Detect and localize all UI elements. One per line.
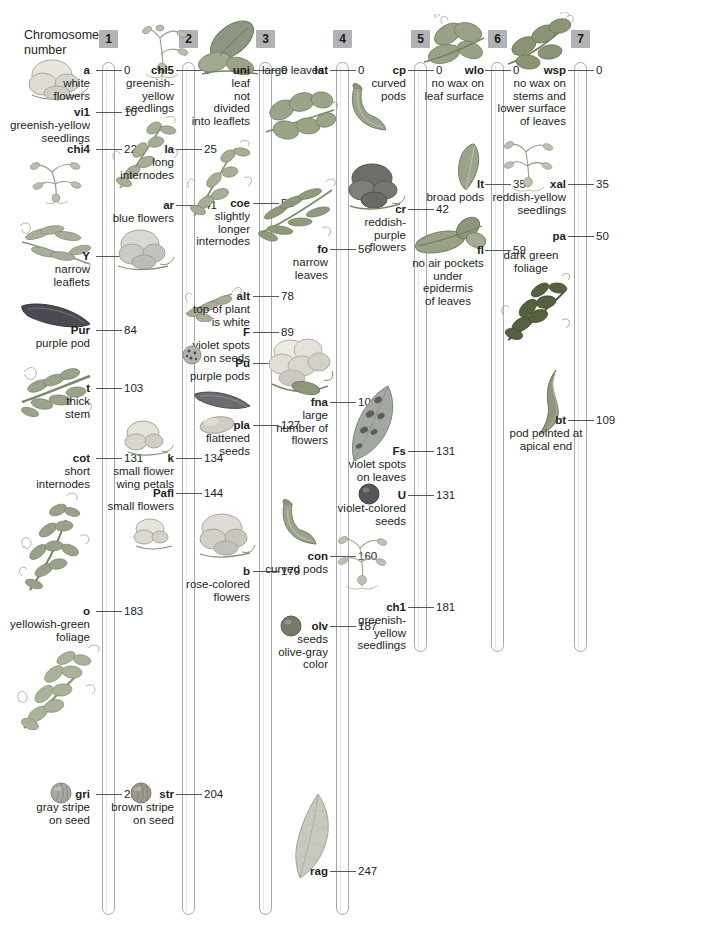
locus-gene-cp: cp — [364, 64, 406, 77]
locus-gene-U: U — [364, 489, 406, 502]
locus-tick-rag — [330, 871, 356, 872]
locus-gene-pla: pla — [206, 419, 250, 432]
locus-desc-coe: slightly longer internodes — [186, 210, 250, 248]
locus-desc-cr: reddish- purple flowers — [352, 216, 406, 254]
locus-gene-a: a — [40, 64, 90, 77]
illustration-violet-spotted-seed — [182, 345, 202, 365]
locus-tick-Fs — [408, 451, 434, 452]
locus-gene-fo: fo — [286, 243, 328, 256]
locus-gene-la: la — [128, 143, 174, 156]
locus-gene-F: F — [206, 326, 250, 339]
locus-distance-o: 183 — [124, 605, 143, 618]
locus-gene-lt: lt — [442, 178, 484, 191]
locus-tick-lat — [330, 70, 356, 71]
locus-tick-bt — [568, 420, 594, 421]
locus-gene-ar: ar — [128, 199, 174, 212]
locus-distance-xal: 35 — [596, 178, 609, 191]
locus-desc-a: white flowers — [10, 77, 90, 102]
locus-tick-t — [96, 388, 122, 389]
locus-gene-Pafl: Pafl — [120, 487, 174, 500]
locus-distance-pa: 50 — [596, 230, 609, 243]
locus-desc-fna: large number of flowers — [262, 409, 328, 447]
locus-tick-str — [176, 794, 202, 795]
locus-gene-gri: gri — [40, 788, 90, 801]
locus-tick-Pur — [96, 330, 122, 331]
locus-gene-fna: fna — [286, 396, 328, 409]
locus-gene-str: str — [128, 788, 174, 801]
locus-tick-a — [96, 70, 122, 71]
locus-distance-Pur: 84 — [124, 324, 137, 337]
locus-desc-lt: broad pods — [412, 191, 484, 204]
locus-desc-vi1: greenish-yellow seedlings — [0, 119, 90, 144]
locus-tick-xal — [568, 184, 594, 185]
locus-desc-ar: blue flowers — [104, 212, 174, 225]
illustration-many-flowers — [264, 336, 336, 402]
locus-gene-t: t — [40, 382, 90, 395]
locus-distance-t: 103 — [124, 382, 143, 395]
locus-desc-Pur: purple pod — [16, 337, 90, 350]
locus-desc-chi5: greenish- yellow seedlings — [110, 77, 174, 115]
locus-desc-Y: narrow leaflets — [16, 263, 90, 288]
locus-distance-rag: 247 — [358, 865, 377, 878]
locus-desc-fo: narrow leaves — [264, 256, 328, 281]
illustration-large-leaves — [262, 84, 338, 144]
locus-gene-Y: Y — [40, 250, 90, 263]
locus-tick-wsp — [568, 70, 594, 71]
locus-desc-uni: leaf not divided into leaflets — [186, 77, 250, 127]
locus-desc-pa: dark green foliage — [496, 249, 566, 274]
illustration-short-internodes — [14, 490, 100, 600]
locus-tick-cp — [408, 70, 434, 71]
locus-gene-chi5: chi5 — [128, 64, 174, 77]
locus-tick-Pafl — [176, 493, 202, 494]
locus-gene-cot: cot — [40, 452, 90, 465]
locus-desc-wsp: no wax on stems and lower surface of lea… — [488, 77, 566, 127]
locus-gene-rag: rag — [286, 865, 328, 878]
illustration-purple-pods — [192, 386, 254, 414]
illustration-rose-colored-flowers — [192, 510, 256, 562]
locus-distance-bt: 109 — [596, 414, 615, 427]
locus-gene-wlo: wlo — [442, 64, 484, 77]
illustration-chi4-seedling — [26, 154, 88, 204]
locus-desc-alt: top of plant is white — [180, 303, 250, 328]
illustration-narrow-leaves — [258, 176, 338, 248]
locus-gene-Pur: Pur — [40, 324, 90, 337]
locus-gene-xal: xal — [524, 178, 566, 191]
locus-desc-Fs: violet spots on leaves — [334, 458, 406, 483]
locus-gene-b: b — [206, 565, 250, 578]
locus-tick-o — [96, 611, 122, 612]
locus-desc-b: rose-colored flowers — [178, 578, 250, 603]
chromosome-bar-5 — [414, 62, 427, 652]
page-title: Chromosome number — [24, 28, 104, 58]
locus-desc-lat: large leaves — [244, 64, 324, 77]
locus-desc-cot: short internodes — [14, 465, 90, 490]
locus-distance-Fs: 131 — [436, 445, 455, 458]
locus-gene-Pu: Pu — [206, 357, 250, 370]
locus-gene-bt: bt — [524, 414, 566, 427]
locus-gene-olv: olv — [286, 620, 328, 633]
locus-tick-pa — [568, 236, 594, 237]
chromosome-number-4: 4 — [333, 30, 352, 48]
locus-gene-Fs: Fs — [364, 445, 406, 458]
genetic-linkage-map: Chromosome number 1 2 3 4 5 6 7 a 0 whit… — [0, 0, 719, 935]
locus-tick-F — [253, 332, 279, 333]
locus-desc-o: yellowish-green foliage — [2, 618, 90, 643]
locus-distance-wsp: 0 — [596, 64, 602, 77]
locus-desc-con: curved pods — [254, 563, 328, 576]
locus-gene-k: k — [128, 452, 174, 465]
locus-desc-xal: reddish-yellow seedlings — [484, 191, 566, 216]
locus-gene-pa: pa — [524, 230, 566, 243]
illustration-no-wax-leaf — [418, 14, 488, 70]
locus-gene-fl: fl — [442, 244, 484, 257]
chromosome-number-1: 1 — [99, 30, 118, 48]
illustration-curved-pods-5 — [340, 82, 396, 138]
locus-distance-U: 131 — [436, 489, 455, 502]
locus-gene-cr: cr — [364, 203, 406, 216]
locus-distance-alt: 78 — [281, 290, 294, 303]
locus-desc-fl: no air pockets under epidermis of leaves — [408, 257, 488, 307]
locus-distance-Pafl: 144 — [204, 487, 223, 500]
illustration-yellowish-green-foliage — [14, 642, 104, 734]
locus-desc-Pafl: small flowers — [98, 500, 174, 513]
illustration-dark-green-foliage — [496, 272, 572, 348]
locus-gene-vi1: vi1 — [40, 106, 90, 119]
locus-tick-k — [176, 458, 202, 459]
